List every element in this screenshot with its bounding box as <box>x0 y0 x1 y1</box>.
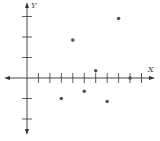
x-axis-right-arrow <box>149 76 155 80</box>
data-point <box>117 17 121 21</box>
data-points <box>60 17 132 104</box>
scatter-plot: X Y <box>0 0 160 141</box>
y-axis-label: Y <box>31 1 37 10</box>
data-point <box>105 100 109 104</box>
data-point <box>60 97 64 101</box>
axes <box>4 2 155 135</box>
data-point <box>82 90 86 94</box>
data-point <box>71 38 75 42</box>
data-point <box>128 76 132 80</box>
y-axis-top-arrow <box>25 2 29 8</box>
data-point <box>94 69 98 73</box>
x-axis-left-arrow <box>4 76 10 80</box>
x-axis-label: X <box>147 65 154 74</box>
y-axis-bottom-arrow <box>25 129 29 135</box>
